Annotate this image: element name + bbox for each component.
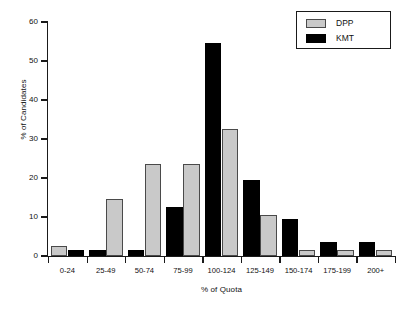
legend-swatch-kmt-icon: [306, 34, 326, 43]
legend: DPP KMT: [296, 11, 391, 49]
bar-dpp-125-149: [260, 215, 277, 256]
x-axis-tick: [356, 257, 357, 263]
bar-chart: 0102030405060 0-2425-4950-7475-99100-124…: [0, 0, 405, 309]
x-axis-tick: [164, 257, 165, 263]
y-axis-tick-label: 60: [8, 18, 38, 26]
bar-dpp-50-74: [145, 164, 162, 256]
bar-dpp-100-124: [222, 129, 239, 256]
bar-dpp-25-49: [106, 199, 123, 256]
x-axis-tick: [318, 257, 319, 263]
legend-item-dpp: DPP: [297, 16, 390, 31]
bar-kmt-125-149: [243, 180, 260, 256]
x-axis-tick-label: 200+: [350, 266, 402, 275]
x-axis-tick: [87, 257, 88, 263]
y-axis-tick: [41, 216, 48, 217]
y-axis-tick: [41, 255, 48, 256]
bar-dpp-0-24: [51, 246, 68, 256]
x-axis-tick: [202, 257, 203, 263]
bar-kmt-200-: [359, 242, 376, 256]
x-axis-tick: [241, 257, 242, 263]
bar-kmt-100-124: [205, 43, 222, 256]
bar-kmt-0-24: [68, 250, 85, 256]
y-axis-tick: [41, 99, 48, 100]
y-axis-title: % of Candidates: [19, 40, 28, 180]
legend-item-kmt: KMT: [297, 31, 390, 46]
bar-kmt-150-174: [282, 219, 299, 256]
y-axis-tick: [41, 177, 48, 178]
y-axis-tick: [41, 138, 48, 139]
x-axis-line: [47, 256, 396, 257]
legend-label-kmt: KMT: [336, 34, 354, 43]
x-axis-tick: [279, 257, 280, 263]
x-axis-tick: [125, 257, 126, 263]
y-axis-tick: [41, 21, 48, 22]
bar-dpp-200-: [376, 250, 393, 256]
y-axis-tick-label: 0: [8, 252, 38, 260]
bar-kmt-75-99: [166, 207, 183, 256]
y-axis-tick: [41, 60, 48, 61]
bars-layer: [48, 22, 395, 256]
bar-kmt-50-74: [128, 250, 145, 256]
bar-kmt-25-49: [89, 250, 106, 256]
x-axis-tick: [395, 257, 396, 263]
y-axis-tick-label: 10: [8, 213, 38, 221]
bar-dpp-175-199: [337, 250, 354, 256]
legend-label-dpp: DPP: [336, 19, 353, 28]
x-axis-tick: [48, 257, 49, 263]
bar-dpp-150-174: [299, 250, 316, 256]
bar-kmt-175-199: [320, 242, 337, 256]
bar-dpp-75-99: [183, 164, 200, 256]
x-axis-title: % of Quota: [48, 285, 395, 294]
legend-swatch-dpp-icon: [306, 19, 326, 28]
